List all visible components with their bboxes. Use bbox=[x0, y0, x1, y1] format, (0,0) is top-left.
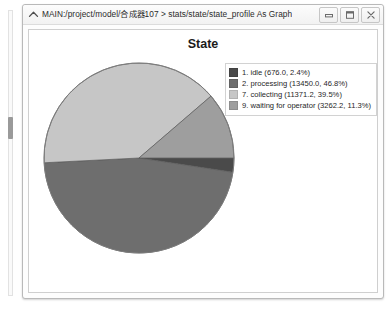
chevron-up-icon bbox=[27, 8, 40, 21]
window-title: MAIN:/project/model/合成器107 > stats/state… bbox=[42, 9, 292, 20]
pie-chart-svg bbox=[41, 60, 237, 256]
close-button[interactable] bbox=[361, 7, 380, 23]
maximize-icon bbox=[345, 11, 354, 20]
legend-swatch bbox=[229, 68, 238, 77]
legend-item[interactable]: 1. idle (676.0, 2.4%) bbox=[229, 68, 371, 79]
window-left-scrollbar[interactable] bbox=[8, 10, 13, 296]
legend-label: 7. collecting (11371.2, 39.5%) bbox=[242, 90, 342, 99]
pie-slice-group bbox=[44, 63, 234, 253]
chart-title: State bbox=[29, 37, 377, 51]
graph-client-area: State 1. idle (676.0, 2.4%) 2. processin… bbox=[28, 29, 378, 293]
pie-slice[interactable] bbox=[44, 158, 233, 253]
legend-item[interactable]: 7. collecting (11371.2, 39.5%) bbox=[229, 90, 371, 101]
legend-label: 2. processing (13450.0, 46.8%) bbox=[242, 79, 348, 88]
legend-swatch bbox=[229, 90, 238, 99]
legend-swatch bbox=[229, 79, 238, 88]
legend-item[interactable]: 2. processing (13450.0, 46.8%) bbox=[229, 79, 371, 90]
window-left-scrollbar-thumb[interactable] bbox=[8, 117, 13, 139]
pie-chart bbox=[41, 60, 237, 256]
legend-label: 1. idle (676.0, 2.4%) bbox=[242, 68, 310, 77]
graph-window: MAIN:/project/model/合成器107 > stats/state… bbox=[22, 4, 384, 299]
chart-legend: 1. idle (676.0, 2.4%) 2. processing (134… bbox=[225, 63, 377, 116]
maximize-button[interactable] bbox=[340, 7, 359, 23]
minimize-icon bbox=[324, 11, 333, 20]
legend-label: 9. waiting for operator (3262.2, 11.3%) bbox=[242, 101, 371, 110]
legend-swatch bbox=[229, 101, 238, 110]
window-controls bbox=[319, 7, 380, 23]
close-icon bbox=[366, 11, 375, 20]
window-titlebar[interactable]: MAIN:/project/model/合成器107 > stats/state… bbox=[23, 5, 383, 25]
minimize-button[interactable] bbox=[319, 7, 338, 23]
legend-item[interactable]: 9. waiting for operator (3262.2, 11.3%) bbox=[229, 101, 371, 112]
